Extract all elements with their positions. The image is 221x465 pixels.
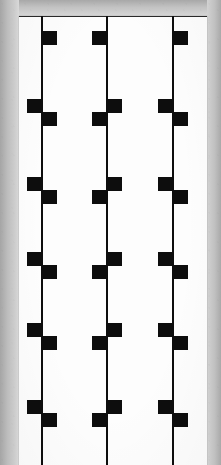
- square-mark-1-11: [43, 413, 57, 427]
- square-mark-1-5: [43, 190, 57, 204]
- stem-2: [106, 16, 108, 465]
- square-mark-1-7: [43, 265, 57, 279]
- stem-1: [41, 16, 43, 465]
- scanned-page-canvas: [0, 0, 221, 465]
- square-mark-2-9: [92, 336, 106, 350]
- square-mark-3-10: [158, 400, 172, 414]
- square-mark-2-7: [92, 265, 106, 279]
- square-mark-1-2: [27, 99, 41, 113]
- square-mark-3-6: [158, 252, 172, 266]
- square-mark-3-9: [174, 336, 188, 350]
- square-mark-3-5: [174, 190, 188, 204]
- square-mark-2-6: [108, 252, 122, 266]
- square-mark-2-10: [108, 400, 122, 414]
- square-mark-2-4: [108, 177, 122, 191]
- square-mark-3-4: [158, 177, 172, 191]
- square-mark-2-3: [92, 112, 106, 126]
- stem-3: [172, 16, 174, 465]
- square-mark-3-2: [158, 99, 172, 113]
- ink-layer: [0, 0, 221, 465]
- square-mark-3-1: [174, 31, 188, 45]
- square-mark-3-3: [174, 112, 188, 126]
- square-mark-2-1: [92, 31, 106, 45]
- square-mark-1-8: [27, 323, 41, 337]
- square-mark-3-11: [174, 413, 188, 427]
- square-mark-1-6: [27, 252, 41, 266]
- square-mark-3-8: [158, 323, 172, 337]
- square-mark-3-7: [174, 265, 188, 279]
- square-mark-1-4: [27, 177, 41, 191]
- square-mark-2-8: [108, 323, 122, 337]
- square-mark-2-5: [92, 190, 106, 204]
- square-mark-1-10: [27, 400, 41, 414]
- square-mark-2-2: [108, 99, 122, 113]
- square-mark-1-1: [43, 31, 57, 45]
- square-mark-2-11: [92, 413, 106, 427]
- square-mark-1-3: [43, 112, 57, 126]
- square-mark-1-9: [43, 336, 57, 350]
